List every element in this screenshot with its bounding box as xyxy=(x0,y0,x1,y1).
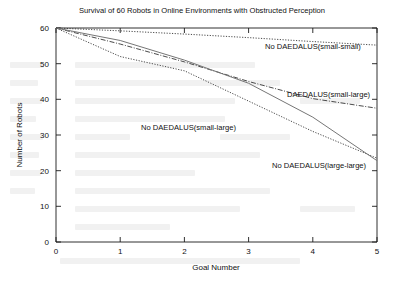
x-tick-label: 2 xyxy=(182,247,187,256)
x-tick-label: 1 xyxy=(118,247,123,256)
x-tick-label: 5 xyxy=(375,247,380,256)
chart-figure: Survival of 60 Robots in Online Environm… xyxy=(0,0,405,282)
y-tick-label: 20 xyxy=(40,167,49,176)
y-axis-title: Number of Robots xyxy=(15,103,24,168)
x-tick-label: 3 xyxy=(246,247,251,256)
y-tick-marks xyxy=(56,28,377,242)
x-tick-label: 0 xyxy=(54,247,59,256)
series-annotation-label: No DAEDALUS(large-large) xyxy=(272,161,367,170)
y-tick-label: 10 xyxy=(40,202,49,211)
x-axis-title: Goal Number xyxy=(192,263,240,272)
series-annotation-label: No DAEDALUS(small-small) xyxy=(265,42,361,51)
series-annotations: No DAEDALUS(small-small)DAEDALUS(small-l… xyxy=(141,42,371,170)
x-tick-labels: 0 1 2 3 4 5 xyxy=(54,247,380,256)
series-annotation-label: No DAEDALUS(small-large) xyxy=(141,123,236,132)
y-tick-label: 0 xyxy=(45,238,50,247)
y-tick-label: 40 xyxy=(40,95,49,104)
chart-title: Survival of 60 Robots in Online Environm… xyxy=(79,6,325,15)
x-tick-marks xyxy=(56,28,377,242)
x-tick-label: 4 xyxy=(311,247,316,256)
chart-canvas: Survival of 60 Robots in Online Environm… xyxy=(0,0,405,282)
y-tick-label: 50 xyxy=(40,60,49,69)
y-tick-labels: 0 10 20 30 40 50 60 xyxy=(40,24,49,247)
y-tick-label: 60 xyxy=(40,24,49,33)
y-tick-label: 30 xyxy=(40,131,49,140)
series-annotation-label: DAEDALUS(small-large) xyxy=(287,90,371,99)
plot-frame xyxy=(56,28,377,242)
